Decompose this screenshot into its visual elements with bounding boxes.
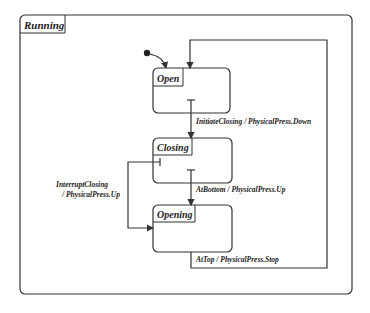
- initial-transition-arrow: [149, 54, 166, 68]
- statechart-diagram: Running Open Closing Opening InitiateClo…: [0, 0, 370, 313]
- state-closing-label: Closing: [157, 142, 189, 153]
- transition-initiate-closing-label: InitiateClosing / PhysicalPress.Down: [195, 117, 311, 126]
- state-opening[interactable]: Opening: [153, 205, 232, 252]
- initial-dot-icon: [144, 50, 150, 56]
- initial-state: [144, 50, 166, 68]
- transition-interrupt-label-line2: / PhysicalPress.Up: [61, 190, 120, 199]
- transition-at-bottom-label: AtBottom / PhysicalPress.Up: [195, 185, 286, 194]
- state-closing[interactable]: Closing: [153, 138, 232, 183]
- state-open-label: Open: [157, 73, 180, 84]
- state-opening-label: Opening: [157, 209, 193, 220]
- superstate-label: Running: [23, 19, 65, 31]
- transition-at-top-label: AtTop / PhysicalPress.Stop: [195, 255, 279, 264]
- transition-interrupt-label-line1: InterruptClosing: [55, 180, 108, 189]
